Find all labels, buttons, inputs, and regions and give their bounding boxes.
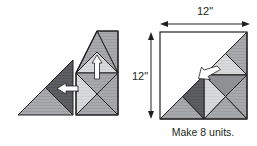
figure-canvas: 12" 12" xyxy=(0,0,257,146)
quilt-block-illustration: 12" 12" xyxy=(0,0,257,146)
height-dimension-label: 12" xyxy=(132,70,148,82)
make-units-caption: Make 8 units. xyxy=(172,126,234,138)
width-dimension-label: 12" xyxy=(197,5,213,17)
